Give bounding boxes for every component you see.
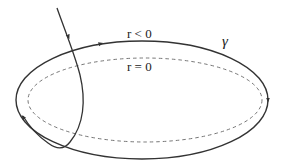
incoming-path [23, 8, 83, 148]
label-gamma: γ [222, 33, 229, 49]
label-r-negative: r < 0 [127, 26, 152, 41]
label-r-zero: r = 0 [127, 59, 152, 74]
diagram-canvas: r < 0 r = 0 γ [0, 0, 284, 166]
